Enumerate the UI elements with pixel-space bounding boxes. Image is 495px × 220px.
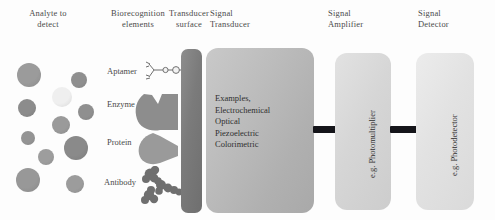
header-signal-transducer-line2: Transducer <box>210 19 282 30</box>
biorecognition-label-aptamer: Aptamer <box>107 66 137 76</box>
transducer-example-3: Piezoelectric <box>215 128 270 140</box>
antibody-shape <box>141 166 183 214</box>
analyte-particle <box>71 72 87 88</box>
header-signal-transducer-line1: Signal <box>210 8 282 19</box>
header-signal-detector-line1: Signal <box>418 8 490 19</box>
amplifier-label: e.g. Photomultiplier <box>367 110 377 178</box>
header-signal-transducer: Signal Transducer <box>210 8 282 30</box>
biorecognition-label-antibody: Antibody <box>104 177 136 187</box>
transducer-example-4: Colorimetric <box>215 139 270 151</box>
header-signal-amplifier-line2: Amplifier <box>328 19 400 30</box>
protein-shape <box>136 132 178 166</box>
biorecognition-label-enzyme: Enzyme <box>107 99 135 109</box>
connector-amplifier-to-detector <box>390 126 419 133</box>
header-signal-amplifier: Signal Amplifier <box>328 8 400 30</box>
analyte-particle <box>52 116 70 134</box>
transducer-surface-strip <box>181 49 202 213</box>
signal-detector-panel <box>416 53 474 210</box>
biorecognition-label-protein: Protein <box>107 137 132 147</box>
transducer-example-1: Electrochemical <box>215 105 270 117</box>
header-signal-detector-line2: Detector <box>418 19 490 30</box>
detector-label: e.g. Photodetector <box>449 114 459 176</box>
header-signal-detector: Signal Detector <box>418 8 490 30</box>
analyte-particle <box>16 168 40 192</box>
analyte-particle <box>52 87 72 107</box>
analyte-particle <box>78 104 94 120</box>
analyte-particle <box>66 175 84 193</box>
header-analyte-line1: Analyte to <box>8 8 88 19</box>
header-analyte: Analyte to detect <box>8 8 88 30</box>
analyte-particle <box>64 136 88 160</box>
analyte-particle <box>18 99 36 117</box>
header-signal-amplifier-line1: Signal <box>328 8 400 19</box>
enzyme-shape <box>132 92 178 132</box>
header-analyte-line2: detect <box>8 19 88 30</box>
transducer-examples-list: Examples, Electrochemical Optical Piezoe… <box>215 93 270 151</box>
transducer-example-0: Examples, <box>215 93 270 105</box>
biosensor-diagram: Analyte to detect Biorecognition element… <box>0 0 495 220</box>
analyte-particle <box>21 131 35 145</box>
transducer-example-2: Optical <box>215 116 270 128</box>
analyte-particle <box>17 63 41 87</box>
analyte-particle <box>38 149 54 165</box>
signal-amplifier-panel <box>335 53 391 210</box>
